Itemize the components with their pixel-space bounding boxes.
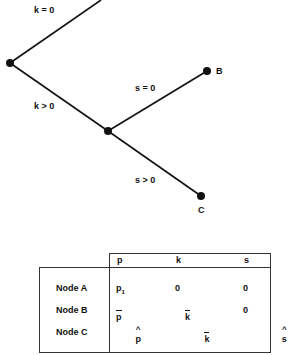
edge-s-positive <box>108 131 201 196</box>
row-label-node-b: Node B <box>56 305 88 315</box>
column-header-p: p <box>117 255 123 265</box>
node-c-label: C <box>198 205 205 215</box>
cell-node-c-s: s <box>282 334 287 344</box>
edge-label-s-zero: s = 0 <box>135 83 155 93</box>
cell-node-a-p: p1 <box>116 283 125 295</box>
cell-node-a-s: 0 <box>243 283 248 293</box>
edge-label-k-positive: k > 0 <box>34 101 54 111</box>
row-label-node-a: Node A <box>56 283 87 293</box>
cell-node-c-p: p <box>135 334 141 344</box>
cell-node-c-k: k <box>204 334 209 344</box>
node-a <box>6 59 14 67</box>
column-header-s: s <box>244 255 249 265</box>
node-b-label: B <box>216 66 223 76</box>
edge-label-s-positive: s > 0 <box>135 175 155 185</box>
decision-tree <box>0 0 291 240</box>
edge-k-zero <box>10 0 101 63</box>
cell-node-b-p: p <box>116 312 122 322</box>
edge-k-positive <box>10 63 108 131</box>
node-values-table: p k s Node A p1 0 0 Node B p k 0 Node C … <box>39 253 270 352</box>
node-c <box>197 192 205 200</box>
cell-node-b-s: 0 <box>243 305 248 315</box>
edge-s-zero <box>108 71 207 131</box>
node-b <box>203 67 211 75</box>
edge-label-k-zero: k = 0 <box>34 5 54 15</box>
column-header-k: k <box>176 255 181 265</box>
row-label-node-c: Node C <box>56 327 88 337</box>
node-intermediate <box>104 127 112 135</box>
cell-node-b-k: k <box>185 312 190 322</box>
cell-node-a-k: 0 <box>175 283 180 293</box>
